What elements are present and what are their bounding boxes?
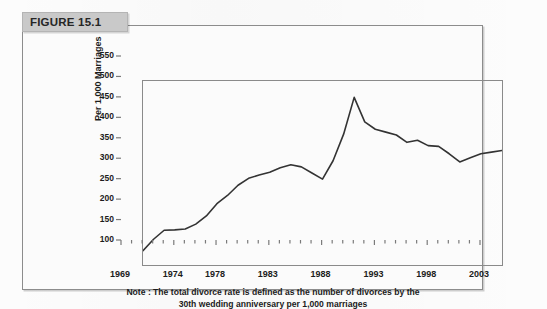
figure-banner-label: FIGURE 15.1 [30,16,101,28]
figure-note-line-2: 30th wedding anniversary per 1,000 marri… [83,299,463,309]
figure-banner: FIGURE 15.1 [22,12,128,32]
axis-ticks [23,26,484,291]
figure-note-line-1: Note : The total divorce rate is defined… [83,287,463,299]
figure-panel: Per 1,000 Marriages 10015020025030035040… [22,25,483,290]
figure-note: Note : The total divorce rate is defined… [83,287,463,309]
